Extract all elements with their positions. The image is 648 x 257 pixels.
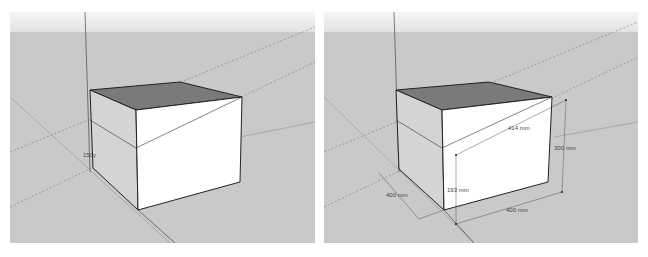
dimension-height-right: 300 mm	[554, 145, 576, 151]
viewport-left[interactable]: 150y	[10, 12, 315, 243]
dimension-label: 150y	[83, 152, 96, 158]
viewport-right[interactable]: 414 mm 300 mm 193 mm 400 mm 400 mm	[324, 12, 638, 243]
dimension-depth: 400 mm	[386, 192, 408, 198]
dimension-height-inner: 193 mm	[447, 187, 469, 193]
dimension-width: 400 mm	[506, 207, 528, 213]
model-canvas-right: 414 mm 300 mm 193 mm 400 mm 400 mm	[324, 12, 638, 243]
model-canvas-left: 150y	[10, 12, 315, 243]
dimension-diagonal: 414 mm	[508, 125, 530, 131]
